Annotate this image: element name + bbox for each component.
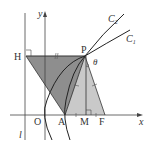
label-o: O <box>34 116 41 127</box>
label-theta: θ <box>93 57 98 67</box>
y-axis-arrow <box>43 11 47 17</box>
label-c2: C2 <box>108 13 118 25</box>
label-y-axis: y <box>37 8 43 19</box>
label-f: F <box>99 116 105 127</box>
label-directrix: l <box>19 129 22 140</box>
parabola-diagram: H P O A M F x y l θ C2 C1 <box>0 0 149 147</box>
label-c1: C1 <box>126 33 136 45</box>
label-h: H <box>14 51 21 62</box>
label-m: M <box>80 116 89 127</box>
right-angle-h <box>26 50 31 56</box>
label-x-axis: x <box>138 116 144 127</box>
label-a: A <box>58 116 66 127</box>
label-p: P <box>81 44 87 55</box>
